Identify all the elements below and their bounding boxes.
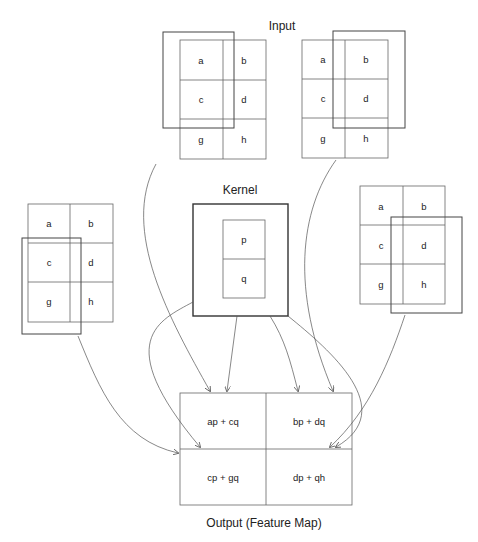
svg-text:c: c — [379, 240, 384, 251]
kernel-cell-q: q — [241, 273, 246, 284]
input-grid-top-left-labels: a b c d g h — [198, 55, 246, 145]
convolution-diagram: Input a b c d g h a b c d g h — [0, 0, 478, 542]
svg-text:c: c — [321, 93, 326, 104]
svg-text:h: h — [363, 133, 368, 144]
arrow-topright-to-out01 — [305, 160, 336, 391]
kernel-label: Kernel — [223, 183, 258, 197]
output-cell-0-1: bp + dq — [293, 416, 325, 427]
output-cell-1-0: cp + gq — [207, 472, 238, 483]
svg-text:d: d — [241, 94, 246, 105]
svg-text:a: a — [378, 201, 384, 212]
input-label: Input — [269, 19, 296, 33]
kernel-box — [193, 204, 288, 316]
arrow-kernel-to-out00 — [227, 316, 237, 391]
output-cell-0-0: ap + cq — [207, 416, 238, 427]
svg-text:h: h — [241, 134, 246, 145]
arrow-bottomright-to-out11 — [330, 315, 405, 447]
svg-text:a: a — [320, 54, 326, 65]
svg-text:g: g — [320, 133, 325, 144]
input-grid-bottom-left — [22, 204, 113, 334]
svg-text:c: c — [199, 94, 204, 105]
output-grid — [180, 393, 352, 505]
kernel-window-overlay — [22, 238, 81, 334]
svg-text:b: b — [363, 54, 368, 65]
svg-text:h: h — [88, 296, 93, 307]
input-grid-bottom-right-labels: a b c d g h — [378, 201, 426, 290]
arrow-topleft-to-out00 — [144, 164, 210, 391]
svg-text:g: g — [198, 134, 203, 145]
kernel-window-overlay — [333, 31, 405, 128]
svg-text:d: d — [421, 240, 426, 251]
output-cell-1-1: dp + qh — [293, 472, 325, 483]
svg-text:g: g — [46, 296, 51, 307]
svg-text:b: b — [88, 218, 93, 229]
input-grid-top-right — [302, 31, 405, 158]
svg-text:a: a — [198, 55, 204, 66]
svg-text:g: g — [378, 279, 383, 290]
kernel-cell-p: p — [241, 234, 246, 245]
input-grid-bottom-right — [360, 186, 462, 313]
svg-text:h: h — [421, 279, 426, 290]
svg-text:b: b — [421, 201, 426, 212]
svg-text:c: c — [47, 257, 52, 268]
input-grid-top-left — [163, 32, 266, 159]
input-grid-top-right-labels: a b c d g h — [320, 54, 368, 144]
svg-text:d: d — [88, 257, 93, 268]
svg-text:a: a — [46, 218, 52, 229]
kernel-window-overlay — [391, 217, 462, 313]
svg-text:b: b — [241, 55, 246, 66]
output-label: Output (Feature Map) — [206, 516, 321, 530]
arrow-kernel-to-out01 — [270, 316, 298, 391]
svg-text:d: d — [363, 93, 368, 104]
arrow-kernel-to-out11 — [288, 316, 362, 447]
